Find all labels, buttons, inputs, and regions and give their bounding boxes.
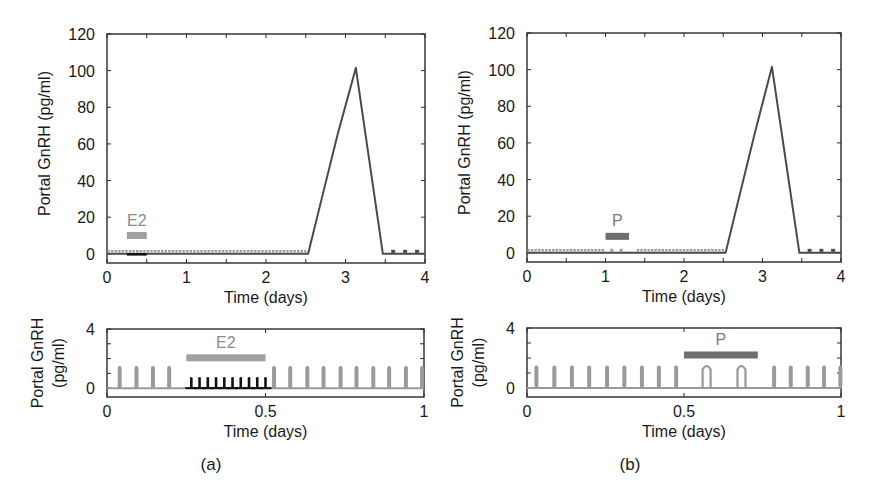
basal-pulse-dot bbox=[122, 250, 124, 252]
progesterone-label: P bbox=[612, 212, 623, 229]
basal-pulse-dot bbox=[573, 249, 575, 251]
x-tick-label: 4 bbox=[837, 268, 846, 285]
basal-pulse-dot bbox=[279, 250, 281, 252]
basal-pulse-dot bbox=[708, 249, 710, 251]
x-tick-label: 0 bbox=[103, 403, 112, 420]
basal-pulse-dot bbox=[150, 250, 152, 252]
basal-pulse-dot bbox=[179, 250, 181, 252]
x-tick-label: 1 bbox=[182, 269, 191, 286]
basal-pulse-dot bbox=[672, 249, 674, 251]
basal-pulse-dot bbox=[602, 249, 604, 251]
gnrh-pulse bbox=[404, 366, 408, 388]
y-tick-label: 100 bbox=[488, 62, 515, 79]
progesterone-label: P bbox=[716, 331, 727, 348]
x-tick-label: 3 bbox=[758, 268, 767, 285]
x-tick-label: 4 bbox=[421, 269, 430, 286]
gnrh-pulse bbox=[822, 366, 826, 389]
axes-frame bbox=[107, 34, 425, 263]
gnrh-pulse bbox=[587, 366, 591, 389]
basal-pulse-dot bbox=[297, 250, 299, 252]
gnrh-pulse bbox=[387, 366, 391, 388]
basal-pulse-dot bbox=[200, 250, 202, 252]
basal-pulse-dot bbox=[143, 250, 145, 252]
y-tick-label: 4 bbox=[506, 320, 515, 337]
gnrh-pulse bbox=[657, 366, 661, 389]
gnrh-pulse bbox=[272, 366, 276, 388]
basal-pulse-dot bbox=[132, 250, 134, 252]
wide-pulse bbox=[703, 366, 711, 388]
e2-pulse bbox=[207, 377, 210, 388]
basal-pulse-dot bbox=[538, 249, 540, 251]
panel-a-bottom-chart: 00.5104Time (days)Portal GnRH(pg/ml)E2 bbox=[29, 318, 429, 440]
basal-pulse-dot bbox=[620, 249, 623, 252]
wide-pulse bbox=[737, 366, 745, 388]
basal-pulse-dot bbox=[258, 250, 260, 252]
basal-pulse-dot bbox=[236, 250, 238, 252]
e2-pulse bbox=[190, 377, 193, 388]
basal-pulse-dot bbox=[598, 249, 600, 251]
basal-pulse-dot bbox=[261, 250, 263, 252]
gnrh-pulse bbox=[134, 366, 138, 388]
basal-pulse-dot bbox=[186, 250, 188, 252]
basal-pulse-dot bbox=[718, 249, 720, 251]
basal-pulse-dot bbox=[580, 249, 582, 251]
basal-pulse-dot bbox=[584, 249, 586, 251]
surge-line bbox=[107, 68, 425, 254]
post-surge-pulse bbox=[391, 250, 395, 253]
basal-pulse-dot bbox=[218, 250, 220, 252]
post-surge-pulse bbox=[819, 249, 823, 252]
gnrh-pulse bbox=[772, 366, 776, 389]
estradiol-label: E2 bbox=[127, 212, 147, 229]
basal-pulse-dot bbox=[556, 249, 558, 251]
basal-pulse-dot bbox=[559, 249, 561, 251]
x-tick-label: 0.5 bbox=[254, 403, 276, 420]
basal-pulse-dot bbox=[647, 249, 649, 251]
basal-pulse-dot bbox=[693, 249, 695, 251]
gnrh-pulse bbox=[420, 366, 424, 388]
basal-pulse-dot bbox=[545, 249, 547, 251]
y-tick-label: 60 bbox=[497, 135, 515, 152]
x-tick-label: 3 bbox=[341, 269, 350, 286]
x-tick-label: 0.5 bbox=[673, 403, 695, 420]
x-axis-title: Time (days) bbox=[224, 289, 308, 306]
basal-pulse-dot bbox=[704, 249, 706, 251]
x-tick-label: 1 bbox=[837, 403, 846, 420]
post-surge-pulse bbox=[415, 250, 419, 253]
e2-pulse bbox=[248, 377, 251, 388]
post-surge-pulse bbox=[808, 249, 812, 252]
basal-pulse-dot bbox=[125, 250, 127, 252]
x-tick-label: 2 bbox=[680, 268, 689, 285]
basal-pulse-dot bbox=[690, 249, 692, 251]
basal-pulse-dot bbox=[679, 249, 681, 251]
y-tick-label: 120 bbox=[488, 25, 515, 42]
e2-pulse bbox=[264, 377, 267, 388]
gnrh-pulse bbox=[605, 366, 609, 389]
basal-pulse-dot bbox=[658, 249, 660, 251]
basal-pulse-dot bbox=[172, 250, 174, 252]
x-tick-label: 0 bbox=[103, 269, 112, 286]
panel-a-top-chart: 01234020406080100120Time (days)Portal Gn… bbox=[36, 26, 430, 306]
basal-pulse-dot bbox=[233, 250, 235, 252]
y-tick-label: 60 bbox=[77, 136, 95, 153]
gnrh-pulse bbox=[789, 366, 793, 389]
estradiol-bar bbox=[127, 232, 147, 239]
basal-pulse-dot bbox=[168, 250, 170, 252]
y-tick-label: 40 bbox=[77, 173, 95, 190]
basal-pulse-dot bbox=[272, 250, 274, 252]
figure: 01234020406080100120Time (days)Portal Gn… bbox=[0, 0, 872, 503]
basal-pulse-dot bbox=[566, 249, 568, 251]
basal-pulse-dot bbox=[655, 249, 657, 251]
basal-pulse-dot bbox=[286, 250, 288, 252]
basal-pulse-dot bbox=[293, 250, 295, 252]
gnrh-pulse bbox=[288, 366, 292, 388]
basal-pulse-dot bbox=[651, 249, 653, 251]
post-surge-pulse bbox=[403, 250, 407, 253]
basal-pulse-dot bbox=[669, 249, 671, 251]
basal-pulse-dot bbox=[225, 250, 227, 252]
e2-pulse bbox=[231, 377, 234, 388]
gnrh-pulse bbox=[322, 366, 326, 388]
gnrh-pulse bbox=[570, 366, 574, 389]
gnrh-pulse bbox=[640, 366, 644, 389]
basal-pulse-dot bbox=[301, 250, 303, 252]
basal-pulse-dot bbox=[665, 249, 667, 251]
